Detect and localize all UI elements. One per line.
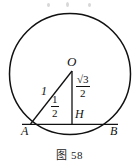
point-label-o: O xyxy=(67,55,76,68)
scan-artifact-speck xyxy=(66,2,69,7)
figure-58: O A B H 1 1 2 √3 2 图 58 xyxy=(0,0,139,166)
point-label-b: B xyxy=(110,125,117,137)
fraction-denominator: 2 xyxy=(76,88,90,99)
fraction-numerator: √3 xyxy=(76,74,90,85)
length-label-radius: 1 xyxy=(41,85,47,97)
point-label-a: A xyxy=(21,125,28,137)
scan-artifact-speck xyxy=(88,3,91,7)
caption-number: 58 xyxy=(71,149,83,161)
figure-caption: 图 58 xyxy=(0,146,139,162)
fraction-root3-over-2: √3 2 xyxy=(76,74,90,99)
fraction-denominator: 2 xyxy=(51,108,59,119)
point-label-h: H xyxy=(75,108,84,120)
fraction-one-half: 1 2 xyxy=(51,94,59,119)
caption-cjk-label: 图 xyxy=(56,149,68,162)
geometry-diagram xyxy=(0,0,139,166)
scan-artifact-speck xyxy=(47,3,50,7)
fraction-numerator: 1 xyxy=(51,94,59,105)
